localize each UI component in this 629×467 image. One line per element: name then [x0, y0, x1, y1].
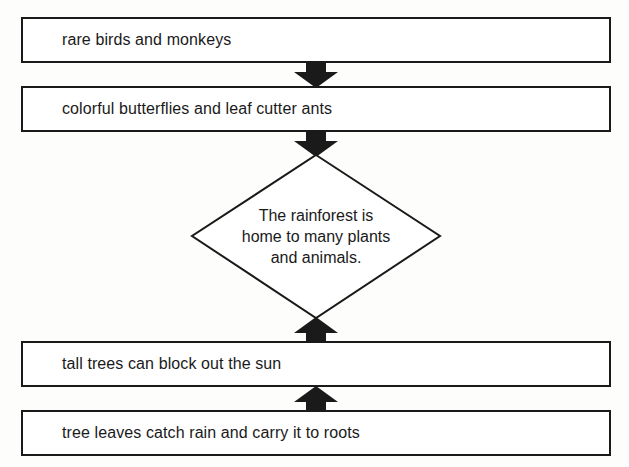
detail-box-label: tall trees can block out the sun — [62, 355, 281, 373]
main-idea-line: home to many plants — [216, 226, 416, 247]
main-idea-text: The rainforest is home to many plants an… — [216, 205, 416, 268]
arrow-up-1 — [294, 317, 338, 343]
detail-box-tall-trees: tall trees can block out the sun — [21, 341, 611, 387]
detail-box-rare-birds: rare birds and monkeys — [21, 17, 611, 63]
detail-box-label: rare birds and monkeys — [62, 31, 231, 49]
arrow-down-2 — [294, 130, 338, 157]
detail-box-label: colorful butterflies and leaf cutter ant… — [62, 100, 332, 118]
detail-box-butterflies: colorful butterflies and leaf cutter ant… — [21, 86, 611, 132]
detail-box-tree-leaves: tree leaves catch rain and carry it to r… — [21, 410, 611, 456]
arrow-down-1 — [294, 61, 338, 88]
main-idea-line: and animals. — [216, 247, 416, 268]
main-idea-line: The rainforest is — [216, 205, 416, 226]
arrow-up-2 — [294, 386, 338, 412]
detail-box-label: tree leaves catch rain and carry it to r… — [62, 424, 360, 442]
